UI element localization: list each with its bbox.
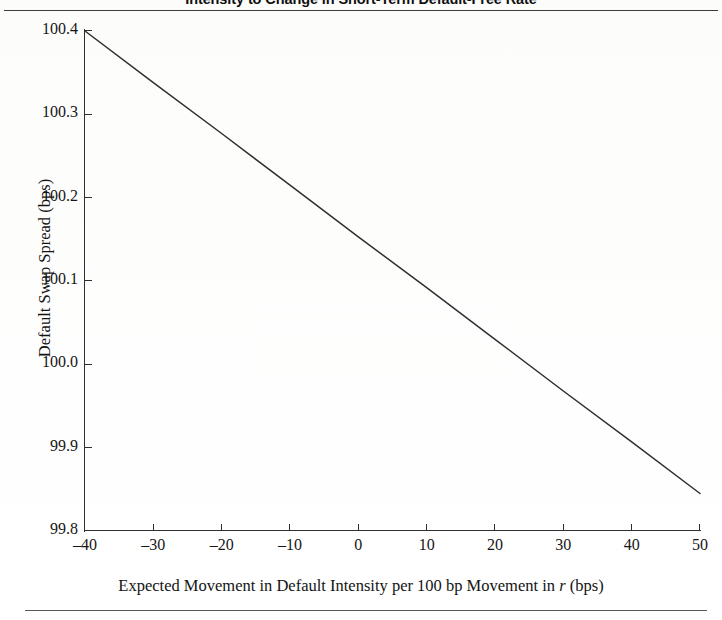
y-tick-mark (85, 530, 92, 531)
y-tick-mark (85, 30, 92, 31)
x-tick-label: –20 (192, 536, 252, 554)
y-tick-label: 100.4 (22, 20, 78, 38)
y-axis-title: Default Swap Spread (bps) (35, 138, 55, 398)
x-tick-label: 10 (397, 536, 457, 554)
x-tick-mark (563, 524, 564, 531)
x-tick-mark (289, 524, 290, 531)
y-tick-mark (85, 197, 92, 198)
y-tick-label: 100.3 (22, 103, 78, 121)
figure-rule-top (4, 10, 718, 11)
x-tick-mark (699, 524, 700, 531)
x-tick-label: –10 (260, 536, 320, 554)
x-axis-title: Expected Movement in Default Intensity p… (0, 576, 722, 596)
x-tick-label: 30 (533, 536, 593, 554)
figure-title: Intensity to Change in Short-Term Defaul… (0, 0, 722, 7)
x-axis-title-before: Expected Movement in Default Intensity p… (118, 576, 559, 595)
x-tick-mark (426, 524, 427, 531)
x-tick-label: 40 (602, 536, 662, 554)
plot-area (85, 31, 700, 531)
x-tick-mark (494, 524, 495, 531)
x-tick-label: 0 (328, 536, 388, 554)
x-tick-mark (221, 524, 222, 531)
y-tick-mark (85, 447, 92, 448)
y-tick-mark (85, 364, 92, 365)
x-tick-label: 20 (465, 536, 525, 554)
y-tick-mark (85, 114, 92, 115)
x-tick-label: 50 (670, 536, 722, 554)
x-tick-label: –30 (123, 536, 183, 554)
x-axis-title-after: (bps) (566, 576, 604, 595)
x-tick-label: –40 (55, 536, 115, 554)
x-tick-mark (153, 524, 154, 531)
figure-rule-bottom (25, 610, 707, 611)
x-tick-mark (84, 524, 85, 531)
x-tick-mark (631, 524, 632, 531)
y-tick-mark (85, 280, 92, 281)
x-tick-mark (358, 524, 359, 531)
y-tick-label: 99.9 (22, 437, 78, 455)
